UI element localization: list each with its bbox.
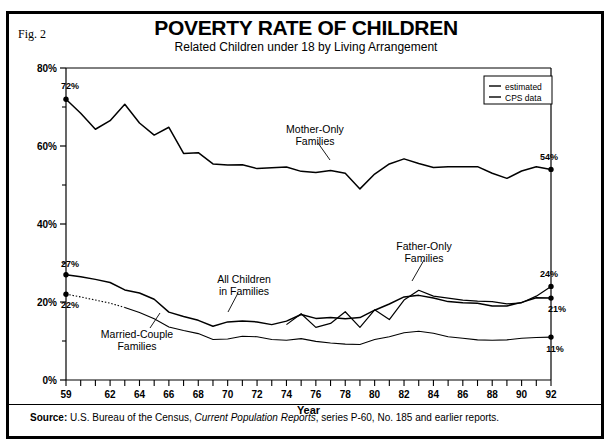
legend-box: estimatedCPS data (484, 76, 552, 104)
source-text-2: , series P-60, No. 185 and earlier repor… (316, 412, 499, 423)
x-tick-label: 70 (222, 389, 234, 400)
annotation-mother-only: Mother-OnlyFamilies (286, 123, 345, 160)
figure-root: Fig. 2 POVERTY RATE OF CHILDREN Related … (0, 0, 612, 447)
label-married-end: 11% (546, 344, 564, 354)
x-tick-label: 90 (516, 389, 528, 400)
x-tick-label: 72 (251, 389, 263, 400)
series-line-1 (66, 275, 551, 326)
x-tick-label: 92 (545, 389, 557, 400)
series-start-marker-0 (63, 97, 68, 102)
annotation-line-1: Father-Only (396, 240, 452, 252)
annotations-layer: Mother-OnlyFamiliesFather-OnlyFamiliesAl… (101, 123, 453, 352)
x-tick-label: 82 (398, 389, 410, 400)
label-father-end: 24% (540, 269, 558, 279)
source-divider (9, 404, 601, 405)
label-all-children-start: 27% (61, 259, 79, 269)
y-tick-label: 40% (37, 219, 57, 230)
annotation-line-1: All Children (217, 273, 271, 285)
legend-label-1: CPS data (505, 93, 542, 103)
x-tick-label: 62 (105, 389, 117, 400)
annotation-married-couple: Married-CoupleFamilies (101, 313, 174, 352)
annotation-line-2: Families (117, 340, 156, 352)
chart-canvas: 0%20%40%60%80%59626466687072747678808284… (0, 0, 612, 447)
annotation-all-children: All Childrenin Families (217, 273, 271, 312)
series-start-marker-1 (63, 272, 68, 277)
y-tick-label: 60% (37, 141, 57, 152)
annotation-leader-line (150, 313, 160, 328)
line-chart: 0%20%40%60%80%59626466687072747678808284… (0, 0, 612, 447)
y-tick-label: 20% (37, 297, 57, 308)
source-note: Source: U.S. Bureau of the Census, Curre… (30, 411, 590, 424)
x-tick-label: 78 (340, 389, 352, 400)
annotation-line-1: Married-Couple (101, 328, 174, 340)
legend-label-0: estimated (505, 82, 542, 92)
source-publication: Current Population Reports (195, 412, 316, 423)
series-end-marker-0 (548, 167, 553, 172)
annotation-father-only: Father-OnlyFamilies (396, 240, 452, 281)
label-mother-end: 54% (540, 152, 558, 162)
label-all-children-end: 21% (548, 304, 566, 314)
series-end-marker-3 (548, 334, 553, 339)
x-tick-label: 68 (193, 389, 205, 400)
annotation-line-1: Mother-Only (286, 123, 345, 135)
annotation-line-2: Families (404, 252, 443, 264)
x-tick-label: 76 (310, 389, 322, 400)
x-tick-label: 80 (369, 389, 381, 400)
x-tick-label: 59 (60, 389, 72, 400)
x-tick-label: 74 (281, 389, 293, 400)
y-tick-label: 80% (37, 63, 57, 74)
annotation-line-2: Families (295, 135, 334, 147)
x-tick-label: 86 (457, 389, 469, 400)
source-prefix: Source: (30, 412, 67, 423)
label-mother-start: 72% (61, 81, 79, 91)
source-text-1: U.S. Bureau of the Census, (67, 412, 194, 423)
series-line-3 (125, 307, 551, 344)
x-tick-label: 84 (428, 389, 440, 400)
annotation-line-2: in Families (219, 285, 269, 297)
series-start-marker-3 (63, 292, 68, 297)
label-married-start: 22% (61, 300, 79, 310)
x-tick-label: 64 (134, 389, 146, 400)
y-tick-label: 0% (43, 375, 58, 386)
x-tick-label: 88 (487, 389, 499, 400)
series-end-marker-2 (548, 284, 553, 289)
series-line-2 (286, 286, 551, 327)
x-tick-label: 66 (163, 389, 175, 400)
series-end-marker-1 (548, 295, 553, 300)
